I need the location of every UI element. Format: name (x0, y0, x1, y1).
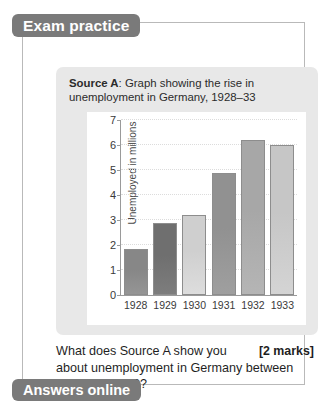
y-tick-label: 5 (110, 165, 116, 176)
bar-1928 (124, 249, 148, 295)
y-tick-label: 4 (110, 190, 116, 201)
section-header-pill: Exam practice (12, 14, 140, 37)
source-label: Source A (69, 77, 119, 89)
y-tick-mark (117, 295, 121, 296)
x-tick-label: 1933 (271, 299, 294, 311)
bar-group: 1933 (270, 120, 294, 295)
bar-1929 (153, 223, 177, 296)
y-tick-label: 6 (110, 140, 116, 151)
marks-badge: [2 marks] (259, 343, 314, 360)
y-tick-label: 3 (110, 215, 116, 226)
exam-practice-box: Source A: Graph showing the rise in unem… (22, 22, 305, 385)
y-tick-label: 2 (110, 240, 116, 251)
answers-online-pill[interactable]: Answers online (12, 379, 141, 401)
x-tick-label: 1932 (241, 299, 264, 311)
x-tick-label: 1930 (183, 299, 206, 311)
bar-group: 1929 (153, 120, 177, 295)
bar-chart: Unemployed in millions 01234567 19281929… (87, 112, 306, 325)
bar-1932 (241, 140, 265, 295)
bar-group: 1932 (241, 120, 265, 295)
y-tick-label: 1 (110, 265, 116, 276)
x-tick-label: 1931 (212, 299, 235, 311)
x-tick-label: 1928 (124, 299, 147, 311)
bar-group: 1930 (182, 120, 206, 295)
x-tick-label: 1929 (153, 299, 176, 311)
bar-group: 1931 (212, 120, 236, 295)
plot-area: 01234567 192819291930193119321933 (120, 120, 297, 296)
source-panel: Source A: Graph showing the rise in unem… (56, 67, 318, 335)
bar-1930 (182, 215, 206, 295)
y-tick-label: 0 (110, 290, 116, 301)
bar-1931 (212, 173, 236, 296)
bar-group: 1928 (124, 120, 148, 295)
bar-1933 (270, 145, 294, 295)
y-tick-label: 7 (110, 115, 116, 126)
bar-series: 192819291930193119321933 (121, 120, 297, 295)
source-caption: Source A: Graph showing the rise in unem… (69, 76, 305, 104)
